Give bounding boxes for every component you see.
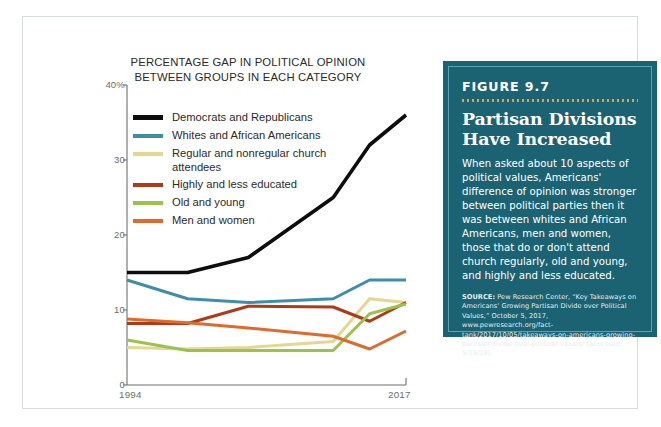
legend-color-swatch: [133, 219, 163, 223]
series-line: [127, 304, 406, 351]
figure-source-text: Pew Research Center, “Key Takeaways on A…: [462, 293, 636, 357]
y-axis-ticks: [123, 85, 127, 385]
page-frame: PERCENTAGE GAP IN POLITICAL OPINION BETW…: [22, 16, 638, 409]
figure-callout-box: FIGURE 9.7 Partisan Divisions Have Incre…: [443, 61, 657, 337]
legend-item: Regular and nonregular church attendees: [133, 147, 383, 174]
legend-item-label: Whites and African Americans: [172, 129, 321, 143]
figure-headline: Partisan Divisions Have Increased: [462, 109, 638, 149]
legend-item-label: Highly and less educated: [172, 178, 297, 192]
legend-item: Men and women: [133, 214, 383, 228]
x-axis-label-start: 1994: [119, 389, 142, 400]
figure-source-citation: SOURCE: Pew Research Center, “Key Takeaw…: [462, 293, 638, 359]
figure-callout-inner: FIGURE 9.7 Partisan Divisions Have Incre…: [448, 66, 652, 332]
legend-item: Democrats and Republicans: [133, 111, 383, 125]
legend-color-swatch: [133, 134, 163, 138]
x-axis-label-end: 2017: [388, 389, 411, 400]
legend-color-swatch: [133, 115, 163, 120]
figure-body-text: When asked about 10 aspects of political…: [462, 157, 638, 283]
chart-legend: Democrats and RepublicansWhites and Afri…: [133, 111, 383, 232]
figure-source-label: SOURCE:: [462, 293, 495, 301]
figure-number: FIGURE 9.7: [462, 79, 638, 94]
legend-color-swatch: [133, 201, 163, 205]
series-line: [127, 280, 406, 303]
legend-item: Whites and African Americans: [133, 129, 383, 143]
legend-item: Highly and less educated: [133, 178, 383, 192]
legend-color-swatch: [133, 152, 163, 156]
legend-item-label: Regular and nonregular church attendees: [172, 147, 326, 174]
legend-item: Old and young: [133, 196, 383, 210]
figure-dotted-rule: [462, 99, 638, 102]
page-canvas: PERCENTAGE GAP IN POLITICAL OPINION BETW…: [0, 0, 661, 427]
legend-item-label: Men and women: [172, 214, 255, 228]
legend-item-label: Democrats and Republicans: [172, 111, 313, 125]
legend-color-swatch: [133, 183, 163, 187]
chart-panel: PERCENTAGE GAP IN POLITICAL OPINION BETW…: [63, 37, 433, 397]
legend-item-label: Old and young: [172, 196, 245, 210]
